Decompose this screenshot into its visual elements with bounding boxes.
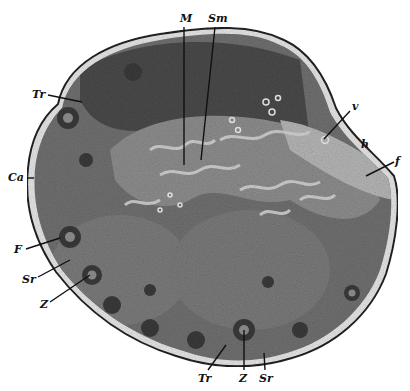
label-f: f — [394, 155, 402, 168]
label-Sm: Sm — [208, 12, 228, 25]
label-Sr-left: Sr — [22, 273, 37, 286]
label-Ca: Ca — [8, 171, 24, 184]
label-F: F — [13, 243, 23, 256]
organ-section — [27, 28, 398, 367]
label-Tr-top: Tr — [32, 88, 46, 101]
label-Z-bottom: Z — [238, 372, 248, 385]
label-Z-left: Z — [39, 298, 49, 311]
label-M: M — [179, 12, 193, 25]
lower-cortex-right — [170, 210, 330, 330]
label-Tr-bottom: Tr — [198, 372, 212, 385]
label-h: h — [361, 138, 369, 151]
label-v: v — [352, 100, 359, 113]
leader-Sr-bottom — [264, 353, 265, 370]
label-Sr-bottom: Sr — [259, 372, 274, 385]
lymph-node-section-figure: M Sm Tr Ca v h f F Sr Z Tr Z Sr — [0, 0, 410, 391]
